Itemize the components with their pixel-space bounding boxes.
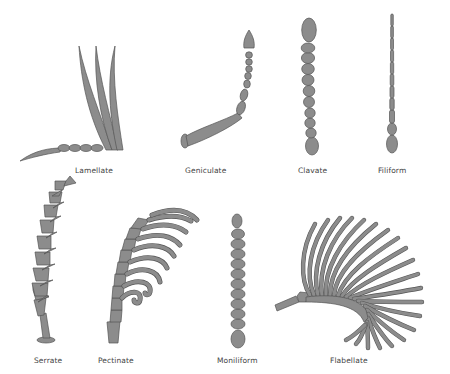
serrate-antenna — [32, 176, 76, 343]
geniculate-antenna — [181, 30, 254, 148]
label-moniliform: Moniliform — [217, 356, 258, 365]
label-clavate: Clavate — [298, 166, 327, 175]
antenna-illustrations: .s { fill:#8c8c8c; stroke:#555; stroke-w… — [0, 0, 450, 374]
lamellate-antenna — [20, 46, 123, 161]
moniliform-antenna — [231, 214, 245, 348]
pectinate-antenna — [107, 210, 197, 343]
label-flabellate: Flabellate — [330, 356, 368, 365]
label-serrate: Serrate — [34, 356, 62, 365]
label-geniculate: Geniculate — [185, 166, 226, 175]
filiform-antenna — [387, 14, 398, 153]
label-filiform: Filiform — [378, 166, 406, 175]
flabellate-antenna — [275, 218, 422, 348]
label-pectinate: Pectinate — [98, 356, 134, 365]
clavate-antenna — [301, 18, 318, 155]
label-lamellate: Lamellate — [75, 166, 113, 175]
